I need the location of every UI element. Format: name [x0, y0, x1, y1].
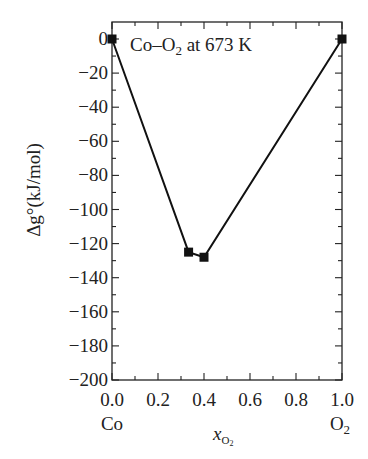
gibbs-energy-chart: 0−20−40−60−80−100−120−140−160−180−200 0.…	[0, 0, 368, 459]
x-tick-labels: 0.00.20.40.60.81.0	[100, 389, 354, 410]
plot-border	[112, 22, 342, 380]
y-tick-label: −200	[69, 369, 108, 390]
square-marker	[108, 35, 117, 44]
y-tick-label: −20	[78, 62, 108, 83]
x-axis-title: xO2	[212, 423, 233, 448]
series-line	[112, 39, 342, 257]
y-tick-label: 0	[99, 28, 109, 49]
y-axis-title: Δg°(kJ/mol)	[23, 143, 45, 237]
x-tick-label: 1.0	[330, 389, 354, 410]
x-tick-label: 0.2	[146, 389, 170, 410]
x-tick-label: 0.4	[192, 389, 216, 410]
y-tick-label: −160	[69, 301, 108, 322]
square-marker	[184, 248, 193, 257]
x-tick-label: 0.8	[284, 389, 308, 410]
y-tick-label: −180	[69, 335, 108, 356]
y-tick-label: −80	[78, 164, 108, 185]
y-tick-label: −40	[78, 96, 108, 117]
plot-frame	[112, 22, 342, 380]
y-tick-label: −120	[69, 233, 108, 254]
square-marker	[200, 253, 209, 262]
chart-annotation: Co–O2 at 673 K	[130, 34, 252, 58]
axis-ticks	[112, 22, 342, 380]
x-tick-label: 0.0	[100, 389, 124, 410]
square-marker	[338, 35, 347, 44]
left-component-label: Co	[101, 413, 123, 434]
data-series	[108, 35, 347, 262]
right-component-label: O2	[330, 413, 350, 437]
y-tick-label: −60	[78, 130, 108, 151]
y-tick-label: −140	[69, 267, 108, 288]
y-tick-label: −100	[69, 199, 108, 220]
y-tick-labels: 0−20−40−60−80−100−120−140−160−180−200	[69, 28, 108, 390]
x-tick-label: 0.6	[238, 389, 262, 410]
